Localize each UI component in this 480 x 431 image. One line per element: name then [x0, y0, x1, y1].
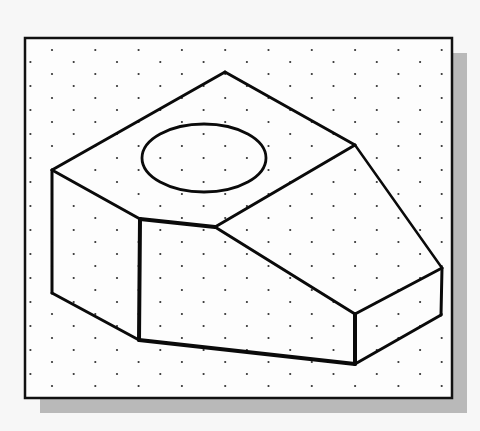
edge-front-left-vertical: [139, 219, 140, 340]
isometric-drawing: [0, 0, 480, 431]
edge-right-vertical: [441, 268, 442, 315]
